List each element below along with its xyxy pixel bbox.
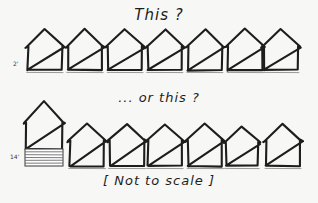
house-body-path [145, 29, 184, 70]
house-body-path [186, 29, 225, 70]
hand-drawn-sketch-canvas: This ? 2' ... or this ? 14' [ Not to sca… [0, 0, 318, 203]
house-body-path [25, 29, 64, 70]
house-row-two [0, 110, 318, 170]
row-one-caption: This ? [0, 6, 318, 24]
house-body-path [185, 124, 224, 167]
house-outline [262, 120, 304, 170]
house-outline [144, 120, 186, 170]
house-body-path [66, 29, 105, 70]
house-body-path [145, 124, 184, 165]
house-outline [222, 123, 262, 170]
house-outline [144, 25, 186, 74]
house-body-path [226, 29, 265, 71]
house-outline [24, 25, 66, 74]
house-body-path [224, 127, 260, 166]
house-outline [64, 25, 106, 74]
house-body-path [107, 124, 146, 166]
house-outline [184, 120, 226, 170]
hatched-foundation [25, 149, 63, 166]
house-body-path [24, 101, 65, 150]
house-body-path [106, 29, 145, 70]
house-outline [260, 25, 302, 74]
house-body-path [263, 124, 303, 166]
not-to-scale-note: [ Not to scale ] [0, 173, 318, 188]
house-row-one [0, 26, 318, 74]
house-body-path [67, 124, 106, 167]
house-body-path [261, 29, 301, 70]
house-outline [66, 120, 108, 170]
house-outline [22, 97, 66, 170]
house-outline [106, 120, 148, 170]
house-outline [104, 25, 146, 74]
house-outline [184, 25, 226, 74]
